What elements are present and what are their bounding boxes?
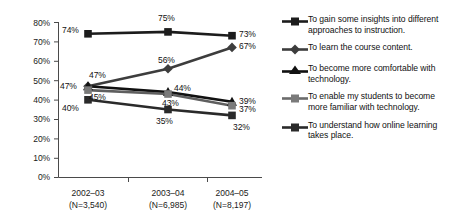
y-tick-label-70: 70% xyxy=(16,37,50,47)
data-label-course-content-2003: 56% xyxy=(158,55,175,65)
legend-item-comfortable-tech[interactable]: To become more comfortable with technolo… xyxy=(282,63,456,84)
legend-label: To gain some insights into different app… xyxy=(308,14,456,35)
series-markers-course-content xyxy=(83,43,237,91)
legend-item-students-familiar[interactable]: To enable my students to become more fam… xyxy=(282,91,456,112)
data-label-online-learning-2004: 32% xyxy=(233,122,250,132)
y-tick-label-10: 10% xyxy=(16,153,50,163)
y-tick-label-0: 0% xyxy=(16,172,50,182)
legend-label: To enable my students to become more fam… xyxy=(308,91,456,112)
line-chart: 80% 70% 60% 50% 40% 30% 20% 10% 0% 2002–… xyxy=(0,0,456,224)
y-tick-label-40: 40% xyxy=(16,95,50,105)
x-tick-year: 2002–03 xyxy=(46,188,130,200)
y-tick-marks xyxy=(54,23,59,178)
data-label-students-familiar-2002: 45% xyxy=(89,92,106,102)
triangle-marker-icon xyxy=(282,64,308,77)
data-label-comfortable-tech-2002: 47% xyxy=(89,70,106,80)
legend-item-online-learning[interactable]: To understand how online learning takes … xyxy=(282,120,456,141)
legend-label: To understand how online learning takes … xyxy=(308,120,456,141)
square-marker-icon xyxy=(282,15,308,28)
data-label-insights-2004: 73% xyxy=(239,29,256,39)
data-label-online-learning-2002: 40% xyxy=(62,103,79,113)
y-tick-label-30: 30% xyxy=(16,114,50,124)
data-label-students-familiar-2004: 37% xyxy=(239,104,256,114)
data-label-course-content-2004: 67% xyxy=(239,41,256,51)
x-tick-n: (N=3,540) xyxy=(46,200,130,212)
x-tick-label-2002-03: 2002–03 (N=3,540) xyxy=(46,188,130,211)
diamond-marker-icon xyxy=(282,43,308,56)
x-tick-n: (N=8,197) xyxy=(190,200,274,212)
series-line-insights xyxy=(88,32,232,36)
legend-item-course-content[interactable]: To learn the course content. xyxy=(282,42,456,56)
x-tick-marks xyxy=(129,178,208,183)
y-tick-label-50: 50% xyxy=(16,76,50,86)
legend-label: To learn the course content. xyxy=(308,42,413,53)
y-tick-label-80: 80% xyxy=(16,18,50,28)
data-label-course-content-2002: 47% xyxy=(60,81,77,91)
series-line-course-content xyxy=(88,47,232,86)
y-tick-label-20: 20% xyxy=(16,134,50,144)
legend-item-insights[interactable]: To gain some insights into different app… xyxy=(282,14,456,35)
data-label-insights-2002: 74% xyxy=(62,25,79,35)
y-tick-label-60: 60% xyxy=(16,56,50,66)
legend-label: To become more comfortable with technolo… xyxy=(308,63,456,84)
data-label-students-familiar-2003: 44% xyxy=(174,83,191,93)
x-tick-label-2004-05: 2004–05 (N=8,197) xyxy=(190,188,274,211)
square-marker-icon xyxy=(282,92,308,105)
data-label-online-learning-2003: 35% xyxy=(156,116,173,126)
square-marker-icon xyxy=(282,121,308,134)
data-label-insights-2003: 75% xyxy=(158,13,175,23)
data-label-comfortable-tech-2003: 43% xyxy=(162,98,179,108)
x-tick-year: 2004–05 xyxy=(190,188,274,200)
chart-legend: To gain some insights into different app… xyxy=(282,14,456,148)
